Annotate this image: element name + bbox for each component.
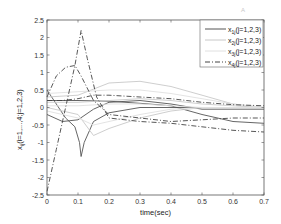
x-tick-label: 0.5 <box>197 198 207 205</box>
x-tick-label: 0 <box>45 198 49 205</box>
x-tick-label: 0.4 <box>166 198 176 205</box>
watermark: A <box>241 7 245 13</box>
x-tick-label: 0.3 <box>135 198 145 205</box>
x-tick-label: 0.7 <box>259 198 269 205</box>
y-tick-label: 2.5 <box>34 17 44 24</box>
line-chart: A 00.10.20.30.40.50.60.7 2.521.510.50-0.… <box>0 0 281 224</box>
y-tick-label: -2 <box>38 174 44 181</box>
x-tick-label: 0.6 <box>228 198 238 205</box>
y-tick-label: 1.5 <box>34 52 44 59</box>
x-tick-label: 0.2 <box>104 198 114 205</box>
legend: x1j(j=1,2,3)x2j(j=1,2,3)x3j(j=1,2,3)x4j(… <box>200 20 263 68</box>
y-axis-label: xij(i=1,...,4;j=1,2,3) <box>15 89 25 150</box>
y-tick-label: 0 <box>40 104 44 111</box>
series-x-42 <box>47 66 264 122</box>
y-tick-label: 2 <box>40 34 44 41</box>
y-tick-label: 0.5 <box>34 87 44 94</box>
x-axis-label: time(sec) <box>140 208 171 217</box>
y-tick-label: -1.5 <box>32 157 44 164</box>
x-tick-label: 0.1 <box>73 198 83 205</box>
y-tick-label: -0.5 <box>32 122 44 129</box>
y-tick-label: 1 <box>40 69 44 76</box>
svg-text:xij(i=1,...,4;j=1,2,3): xij(i=1,...,4;j=1,2,3) <box>15 89 25 150</box>
y-tick-label: -1 <box>38 139 44 146</box>
y-tick-label: -2.5 <box>32 192 44 199</box>
